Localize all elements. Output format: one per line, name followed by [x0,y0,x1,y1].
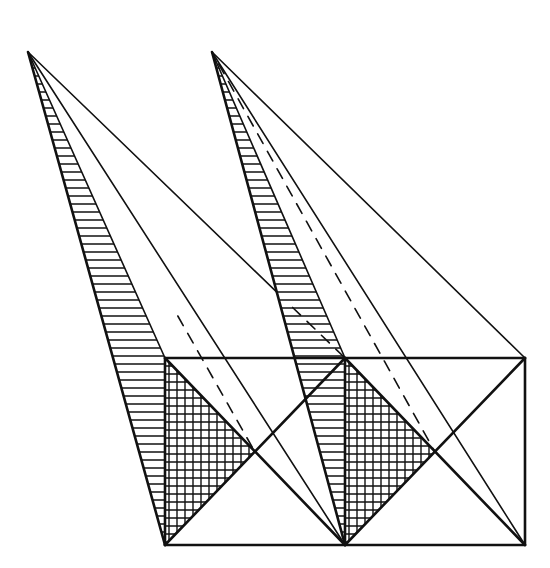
ray-a1-top-left [28,52,165,358]
crosshatched-region-2 [345,358,435,545]
dashed-ray-a2-center [219,64,435,452]
diagram-canvas [0,0,550,568]
ray-a2-top-mid [212,52,345,358]
projection-rays [28,52,525,545]
ray-a1-bottom-mid [28,52,345,545]
ray-a1-top-mid-hidden [293,307,345,358]
ray-a2-bottom-right [212,52,525,545]
double-square-rectangle [165,358,525,545]
crosshatched-region-1 [165,358,255,545]
projection-drawing [0,0,550,568]
ray-a2-bottom-mid [212,52,345,545]
ray-a1-bottom-left [28,52,165,545]
ray-a2-top-right [212,52,525,358]
